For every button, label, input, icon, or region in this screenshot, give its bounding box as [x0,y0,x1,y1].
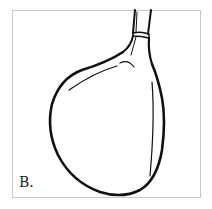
figure-label: B. [19,174,34,190]
shaft-right-line [148,10,151,34]
shaft-left-line [133,10,135,33]
ferrule [133,32,149,38]
club-face-edge [150,82,153,176]
club-head-outline [50,52,164,195]
